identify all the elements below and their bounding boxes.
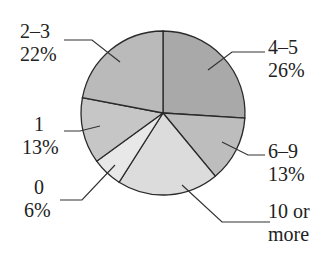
- label-percent: 22%: [20, 43, 57, 66]
- label-category: 6–9: [268, 140, 305, 163]
- label-10-or-more: 10 or more: [268, 200, 310, 246]
- label-0: 0 6%: [24, 176, 51, 222]
- label-percent: 6%: [24, 199, 51, 222]
- label-percent: 26%: [268, 59, 305, 82]
- pie-slices: [81, 31, 245, 195]
- label-category: 2–3: [20, 20, 57, 43]
- label-1: 1 13%: [22, 113, 59, 159]
- label-category: 1: [22, 113, 59, 136]
- label-percent: 13%: [22, 136, 59, 159]
- pie-slice: [163, 31, 245, 118]
- label-category-cont: more: [268, 223, 310, 246]
- label-category: 0: [24, 176, 51, 199]
- label-4-5: 4–5 26%: [268, 36, 305, 82]
- label-category: 10 or: [268, 200, 310, 223]
- label-percent: 13%: [268, 163, 305, 186]
- label-2-3: 2–3 22%: [20, 20, 57, 66]
- label-category: 4–5: [268, 36, 305, 59]
- label-6-9: 6–9 13%: [268, 140, 305, 186]
